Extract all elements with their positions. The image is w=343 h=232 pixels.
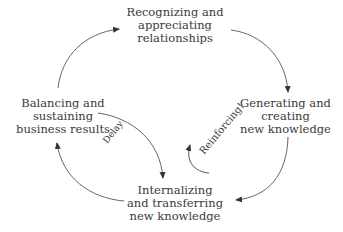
node-generating-knowledge: Generating and creating new knowledge: [228, 97, 343, 136]
node-line: new knowledge: [100, 210, 250, 223]
node-line: new knowledge: [228, 123, 343, 136]
node-recognizing-relationships: Recognizing and appreciating relationshi…: [95, 6, 255, 45]
node-internalizing-knowledge: Internalizing and transferring new knowl…: [100, 184, 250, 223]
node-line: relationships: [95, 32, 255, 45]
